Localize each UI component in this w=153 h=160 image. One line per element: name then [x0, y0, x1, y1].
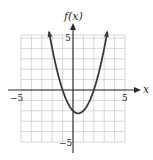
parabola-curve: [49, 32, 107, 114]
y-axis-arrow-icon: [70, 23, 76, 30]
curve-arrow-right-icon: [104, 30, 109, 37]
x-tick-label-min: −5: [10, 93, 24, 103]
y-axis-label: f(x): [63, 10, 83, 23]
axes: [8, 23, 141, 153]
x-axis-label: x: [143, 83, 150, 96]
x-tick-label-max: 5: [122, 93, 128, 103]
x-axis-arrow-icon: [134, 87, 141, 93]
y-tick-label-max: 5: [65, 33, 71, 43]
curve-arrow-left-icon: [48, 30, 53, 37]
y-tick-label-min: −5: [59, 138, 73, 148]
function-graph: f(x) x −5 5 5 −5: [0, 0, 153, 160]
